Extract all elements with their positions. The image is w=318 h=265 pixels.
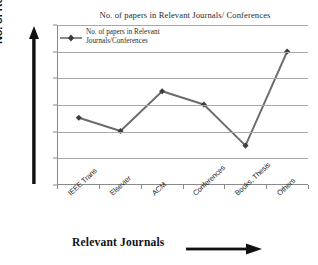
legend-label-line2: Journals/Conferences [86, 37, 160, 46]
x-axis-title: Relevant Journals [72, 236, 165, 248]
x-axis-tick-mark [141, 185, 142, 189]
y-axis-arrow-icon [28, 26, 40, 188]
gridline [58, 25, 308, 26]
gridline [58, 52, 308, 53]
x-axis-tick-mark [99, 185, 100, 189]
gridline [58, 158, 308, 159]
legend-item: No. of papers in Relevant Journals/Confe… [60, 28, 212, 45]
legend-line-marker-icon [60, 29, 82, 39]
chart-legend: No. of papers in Relevant Journals/Confe… [60, 28, 212, 45]
x-axis-tick-mark [224, 185, 225, 189]
y-axis-tick-mark [53, 25, 57, 26]
y-axis-tick-mark [53, 105, 57, 106]
x-axis-tick-mark [308, 185, 309, 189]
x-axis-tick-mark [57, 185, 58, 189]
y-axis-tick-mark [53, 51, 57, 52]
gridline [58, 78, 308, 79]
legend-label: No. of papers in Relevant Journals/Confe… [86, 28, 160, 45]
chart-figure: No. of papers in Relevant Journals/ Conf… [0, 0, 318, 265]
y-axis-title: No. of Research Papers [0, 0, 4, 44]
plot-area [57, 25, 308, 185]
y-axis-tick-mark [53, 78, 57, 79]
y-axis-tick-mark [53, 131, 57, 132]
data-point-marker [76, 115, 82, 121]
gridline [58, 132, 308, 133]
y-axis-tick-mark [53, 158, 57, 159]
x-axis-tick-mark [266, 185, 267, 189]
gridline [58, 105, 308, 106]
chart-title: No. of papers in Relevant Journals/ Conf… [60, 10, 310, 20]
x-axis-arrow-icon [186, 241, 262, 259]
legend-label-line1: No. of papers in Relevant [86, 28, 160, 37]
x-axis-tick-mark [183, 185, 184, 189]
